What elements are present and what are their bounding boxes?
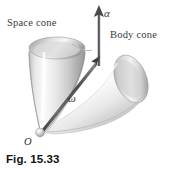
body-cone-label: Body cone bbox=[110, 30, 157, 41]
space-cone-rim-inner bbox=[34, 42, 80, 58]
figure-space-body-cone: Space cone Body cone α ω O Fig. 15.33 bbox=[0, 0, 174, 175]
space-cone-label: Space cone bbox=[7, 18, 57, 29]
omega-vector-label: ω bbox=[68, 93, 76, 104]
origin-point-label: O bbox=[24, 137, 32, 148]
apex-ball-o bbox=[36, 128, 45, 137]
alpha-vector-label: α bbox=[104, 8, 110, 19]
figure-caption: Fig. 15.33 bbox=[6, 153, 59, 165]
